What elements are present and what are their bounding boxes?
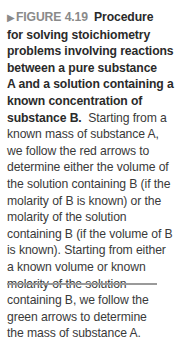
caption-body: the mass of substance A. xyxy=(7,325,161,341)
caption-title: problems involving reactions xyxy=(7,43,161,60)
caption-body: containing B, we follow the xyxy=(7,292,161,309)
caption-body: containing B (if the volume of B xyxy=(7,226,161,243)
right-triangle-icon: ▶ xyxy=(7,12,15,23)
caption-title: for solving stoichiometry xyxy=(7,27,161,44)
figure-label: FIGURE 4.19 xyxy=(16,10,88,24)
caption-divider xyxy=(7,283,157,285)
caption-body: is known). Starting from either xyxy=(7,242,161,259)
caption-body: known mass of substance A, xyxy=(7,126,161,143)
caption-title: Procedure xyxy=(94,10,153,24)
caption-title: known concentration of xyxy=(7,93,161,110)
caption-body: the solution containing B (if the xyxy=(7,176,161,193)
caption-line: substance B. Starting from a xyxy=(7,110,161,127)
caption-body: a known volume or known xyxy=(7,259,161,276)
figure-caption: ▶FIGURE 4.19Procedure for solving stoich… xyxy=(7,9,161,341)
caption-title: substance B. xyxy=(7,111,82,125)
caption-body: molarity of the solution xyxy=(7,209,161,226)
caption-body: we follow the red arrows to xyxy=(7,143,161,160)
caption-body: green arrows to determine xyxy=(7,309,161,326)
caption-body: molarity of B is known) or the xyxy=(7,193,161,210)
caption-body: Starting from a xyxy=(88,111,166,125)
caption-line: ▶FIGURE 4.19Procedure xyxy=(7,9,161,27)
caption-title: between a pure substance xyxy=(7,60,161,77)
caption-title: A and a solution containing a xyxy=(7,76,161,93)
caption-body: determine either the volume of xyxy=(7,159,161,176)
